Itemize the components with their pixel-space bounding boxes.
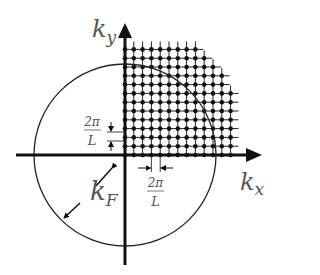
k-point-dot [220,135,225,140]
k-point-dot [132,135,137,140]
k-point-dot [167,126,172,131]
k-point-dot [228,135,233,140]
k-point-dot [132,56,137,61]
k-point-dot [228,118,233,123]
k-point-dot [228,91,233,96]
k-point-dot [176,74,181,79]
k-point-dot [193,74,198,79]
k-point-dot [193,126,198,131]
k-point-dot [228,144,233,149]
k-point-dot [167,135,172,140]
k-point-dot [140,82,145,87]
k-point-dot [132,126,137,131]
k-point-dot [140,126,145,131]
k-point-dot [149,135,154,140]
k-point-dot [167,91,172,96]
k-point-dot [184,144,189,149]
k-point-dot [167,56,172,61]
k-point-dot [211,118,216,123]
kf-radius-arrow-tail [64,203,80,218]
k-point-dot [132,74,137,79]
k-point-dot [202,118,207,123]
k-point-dot [193,135,198,140]
k-point-dot [193,118,198,123]
vertical-spacing-denominator: L [87,133,97,148]
kx-label: kx [240,168,265,199]
k-point-dot [193,82,198,87]
k-point-dot [140,109,145,114]
k-point-dot [149,109,154,114]
k-point-dot [193,109,198,114]
k-point-dot [132,91,137,96]
k-point-dot [176,118,181,123]
k-point-dot [158,47,163,52]
k-point-dot [176,65,181,70]
k-point-dot [211,74,216,79]
k-point-dot [167,47,172,52]
k-point-dot [176,100,181,105]
k-point-dot [228,126,233,131]
k-point-dot [220,74,225,79]
k-point-dot [132,118,137,123]
k-point-dot [202,135,207,140]
k-point-dot [202,91,207,96]
k-point-dot [167,65,172,70]
k-point-dot [158,135,163,140]
k-point-dot [211,109,216,114]
k-point-dot [220,144,225,149]
horizontal-spacing-numerator: 2π [147,176,165,190]
k-point-dot [184,65,189,70]
k-point-dot [176,109,181,114]
k-point-dot [220,91,225,96]
k-point-dot [193,100,198,105]
k-point-dot [184,109,189,114]
k-point-dot [211,82,216,87]
k-point-dot [184,118,189,123]
k-point-dot [149,82,154,87]
k-point-dot [158,109,163,114]
k-point-dot [184,91,189,96]
kf-label: kF [90,176,119,210]
k-point-dot [211,91,216,96]
k-point-dot [211,100,216,105]
k-point-dot [184,56,189,61]
k-point-dot [132,109,137,114]
k-point-dot [211,144,216,149]
kx-axis-arrowhead-icon [246,148,262,162]
k-point-dot [167,82,172,87]
k-point-dot [184,47,189,52]
k-point-dot [132,144,137,149]
k-point-dot [167,100,172,105]
k-point-dot [202,82,207,87]
k-point-dot [220,109,225,114]
k-point-dot [132,82,137,87]
k-point-dot [176,91,181,96]
k-point-dot [176,126,181,131]
k-point-dot [184,100,189,105]
k-point-dot [202,74,207,79]
k-point-dot [140,74,145,79]
k-point-dot [220,118,225,123]
k-point-dot [202,65,207,70]
k-point-dot [158,118,163,123]
k-point-dot [167,109,172,114]
k-point-dot [220,126,225,131]
k-point-dot [193,144,198,149]
k-point-lattice [123,41,239,157]
k-point-dot [193,65,198,70]
k-point-dot [158,126,163,131]
k-point-dot [158,56,163,61]
k-point-dot [132,100,137,105]
ky-label: ky [92,15,117,47]
k-point-dot [167,118,172,123]
k-point-dot [149,100,154,105]
horizontal-spacing-denominator: L [150,194,160,209]
k-point-dot [176,135,181,140]
k-point-dot [140,100,145,105]
k-point-dot [193,47,198,52]
k-point-dot [149,91,154,96]
k-point-dot [140,91,145,96]
k-point-dot [176,56,181,61]
k-point-dot [149,118,154,123]
k-point-dot [140,144,145,149]
